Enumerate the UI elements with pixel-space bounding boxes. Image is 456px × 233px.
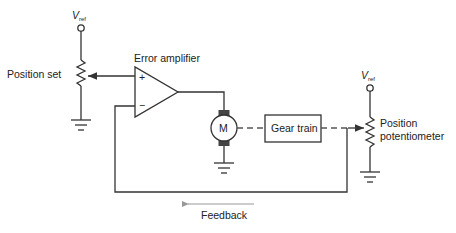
vref-terminal-icon bbox=[78, 25, 84, 31]
feedback-label: Feedback bbox=[201, 209, 248, 221]
position-set-resistor-icon[interactable] bbox=[77, 60, 85, 86]
svg-text:Vref: Vref bbox=[361, 69, 375, 82]
ground-icon bbox=[360, 172, 380, 182]
vref-terminal-icon bbox=[367, 85, 373, 91]
position-pot-label-1: Position bbox=[380, 117, 418, 129]
error-amplifier-label: Error amplifier bbox=[134, 52, 200, 64]
position-potentiometer-icon bbox=[366, 117, 374, 147]
position-pot-vref: Vref bbox=[361, 69, 375, 91]
servo-diagram: Vref Position set + − Error amplifier M … bbox=[0, 0, 456, 233]
svg-text:Vref: Vref bbox=[72, 9, 86, 22]
error-amplifier: + − bbox=[135, 67, 178, 117]
position-set-label: Position set bbox=[7, 68, 61, 80]
motor-icon: M bbox=[211, 110, 237, 146]
ground-icon bbox=[71, 120, 91, 130]
svg-text:+: + bbox=[139, 71, 145, 83]
position-set-vref: Vref bbox=[72, 9, 86, 31]
position-pot-label-2: potentiometer bbox=[380, 130, 445, 142]
svg-text:M: M bbox=[219, 122, 228, 134]
gear-train-label: Gear train bbox=[271, 122, 318, 134]
ground-icon bbox=[214, 163, 234, 173]
svg-text:−: − bbox=[139, 99, 145, 111]
